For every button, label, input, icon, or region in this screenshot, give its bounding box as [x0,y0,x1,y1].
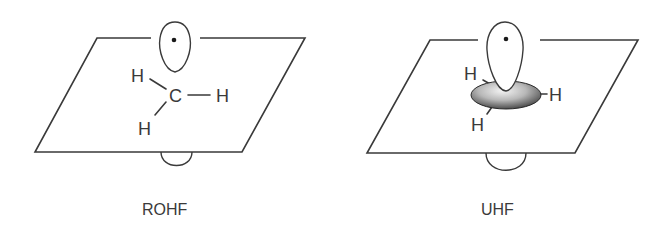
rohf-panel: C H H H ROHF [35,22,305,218]
unpaired-electron-dot [504,37,509,42]
atom-h-right: H [549,85,562,105]
uhf-panel: H H H UHF [367,22,638,218]
atom-h-right: H [216,86,229,106]
lower-orbital-lobe [486,153,526,170]
atom-h-lower-left: H [471,115,484,135]
atom-h-lower-left: H [138,119,151,139]
atom-h-upper-left: H [131,66,144,86]
rohf-vs-uhf-methyl-radical-diagram: C H H H ROHF H H H UHF [0,0,671,226]
caption-rohf: ROHF [142,201,188,218]
caption-uhf: UHF [481,201,514,218]
atom-h-upper-left: H [464,64,477,84]
unpaired-electron-dot [172,38,177,43]
atom-carbon: C [169,86,182,106]
lower-orbital-lobe [161,152,192,166]
